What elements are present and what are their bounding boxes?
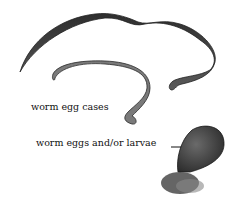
- worm-egg-case-long: [20, 13, 215, 90]
- label-worm-eggs-larvae: worm eggs and/or larvae: [36, 137, 156, 148]
- label-worm-egg-cases: worm egg cases: [31, 101, 109, 112]
- egg-sac-bulb: [178, 126, 225, 172]
- larvae-cluster-speckle: [176, 179, 204, 193]
- worm-egg-case-hook: [52, 61, 150, 124]
